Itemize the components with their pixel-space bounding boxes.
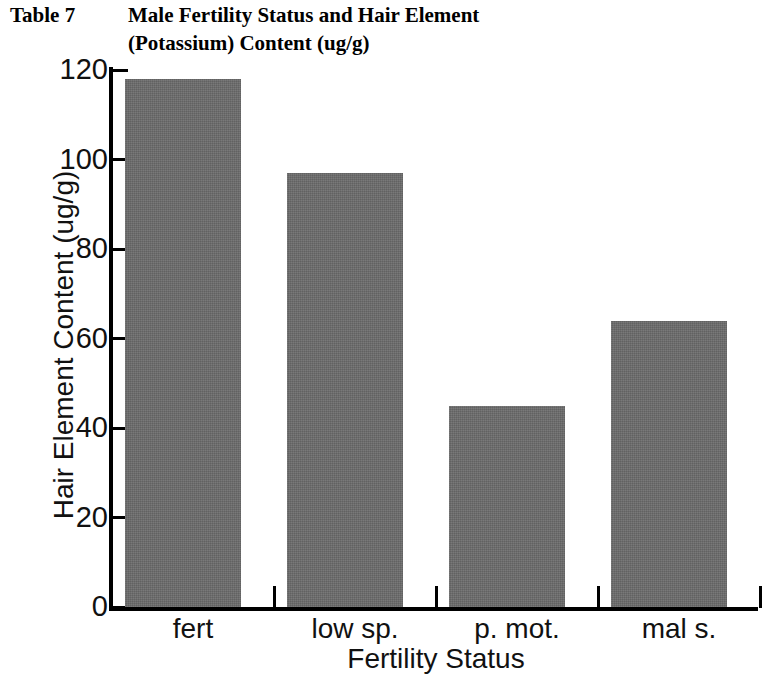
bar bbox=[611, 321, 727, 607]
bar bbox=[125, 79, 241, 607]
x-axis-tick-label: p. mot. bbox=[436, 614, 598, 644]
x-axis-tick-label: fert bbox=[112, 614, 274, 644]
x-axis-tick-label: low sp. bbox=[274, 614, 436, 644]
bar bbox=[287, 173, 403, 607]
bar bbox=[449, 406, 565, 607]
table-title-block: Table 7 Male Fertility Status and Hair E… bbox=[0, 0, 764, 58]
plot-area bbox=[112, 70, 760, 607]
x-axis-tick-label: mal s. bbox=[598, 614, 760, 644]
x-axis-title: Fertility Status bbox=[112, 644, 760, 674]
chart-title-line-1: Male Fertility Status and Hair Element bbox=[128, 1, 558, 29]
table-number-label: Table 7 bbox=[10, 1, 75, 29]
y-axis-title: Hair Element Content (ug/g) bbox=[49, 85, 79, 605]
x-axis-line bbox=[109, 607, 758, 611]
chart-title-line-2: (Potassium) Content (ug/g) bbox=[128, 29, 558, 57]
bar-chart: 020406080100120 fertlow sp.p. mot.mal s.… bbox=[0, 58, 764, 673]
y-axis-tick-label: 120 bbox=[34, 55, 108, 84]
chart-title: Male Fertility Status and Hair Element (… bbox=[128, 1, 558, 57]
